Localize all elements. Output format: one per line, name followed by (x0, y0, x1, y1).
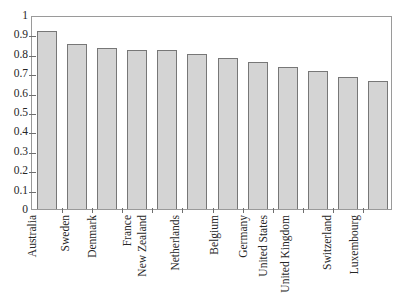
x-axis-category-label: United Kingdom (278, 137, 292, 215)
x-axis-category-label: New Zealand (136, 153, 150, 215)
bar-chart: 00.10.20.30.40.50.60.70.80.91 AustraliaS… (0, 0, 402, 307)
bar (97, 48, 117, 209)
x-axis-label-slot: Belgium (220, 211, 234, 307)
x-axis-label-slot: Denmark (99, 211, 113, 307)
bar (187, 54, 207, 209)
x-axis-label-slot: Netherlands (189, 211, 203, 307)
x-axis-category-label: France (121, 184, 135, 215)
y-axis-tick-label: 0.5 (14, 107, 28, 119)
x-axis-label-slot: Australia (39, 211, 53, 307)
y-axis-tick-label: 0.4 (14, 127, 28, 139)
x-axis-category-label: Netherlands (169, 159, 183, 215)
y-axis-tick-label: 0.8 (14, 49, 28, 61)
bar (368, 81, 388, 209)
x-axis-category-label: Luxembourg (347, 156, 361, 215)
x-axis-category-label: United States (256, 153, 270, 215)
x-axis-category-label: Switzerland (319, 160, 333, 215)
y-axis-tick-mark (29, 36, 36, 37)
y-axis-tick-mark (29, 75, 36, 76)
x-axis-category-label: Australia (25, 173, 39, 215)
x-axis-category-label: Germany (235, 172, 249, 215)
y-axis-tick-label: 0.6 (14, 88, 28, 100)
y-axis-tick-label: 0.7 (14, 68, 28, 80)
x-axis-label-slot: Sweden (69, 211, 83, 307)
y-axis-tick-label: 0.3 (14, 146, 28, 158)
x-axis-category-labels: AustraliaSwedenDenmarkFranceNew ZealandN… (31, 211, 392, 307)
y-axis-tick-label: 1 (22, 10, 28, 22)
y-axis-tick-labels: 00.10.20.30.40.50.60.70.80.91 (0, 0, 30, 307)
x-axis-category-label: Belgium (207, 175, 221, 215)
y-axis-tick-mark (29, 95, 36, 96)
y-axis-tick-mark (29, 153, 36, 154)
bar (37, 31, 57, 209)
y-axis-tick-mark (29, 114, 36, 115)
x-axis-label-slot: Luxembourg (370, 211, 384, 307)
y-axis-tick-mark (29, 133, 36, 134)
y-axis-tick-label: 0.9 (14, 30, 28, 42)
x-axis-category-label: Denmark (85, 172, 99, 215)
y-axis-tick-mark (29, 56, 36, 57)
x-axis-category-label: Sweden (58, 179, 72, 215)
